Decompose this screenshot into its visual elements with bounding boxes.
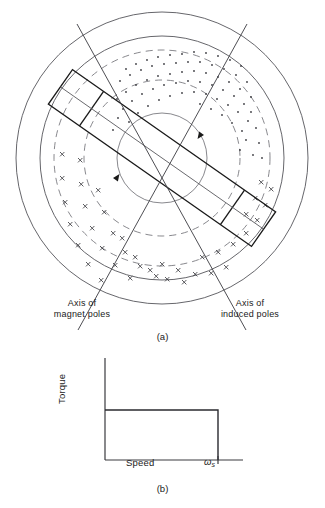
speed-axis-label: Speed <box>126 457 154 468</box>
sync-speed-label: ωs <box>204 456 215 468</box>
axis-of-magnet-poles-line <box>78 24 247 330</box>
induced-label-line-1: Axis of <box>200 298 300 309</box>
torque-speed-chart: Torque Speed ωs <box>0 352 325 492</box>
torque-curve <box>105 410 218 460</box>
omega-symbol: ω <box>204 456 212 467</box>
torque-axis-label: Torque <box>56 374 67 404</box>
axis-of-magnet-poles-label: Axis of magnet poles <box>36 298 128 320</box>
rotor-bar-centre-line <box>60 87 263 229</box>
figure-page: Axis of magnet poles Axis of induced pol… <box>0 0 325 508</box>
rotor-bar-assembly <box>48 70 275 247</box>
torque-speed-chart-svg <box>0 352 325 492</box>
axis-of-induced-poles-line <box>77 24 246 330</box>
axis-of-induced-poles-label: Axis of induced poles <box>200 298 300 320</box>
current-out-of-page-markers <box>112 51 263 159</box>
magnet-label-line-2: magnet poles <box>36 309 128 320</box>
omega-subscript: s <box>212 461 216 468</box>
magnet-label-line-1: Axis of <box>36 298 128 309</box>
induced-label-line-2: induced poles <box>200 309 300 320</box>
caption-b: (b) <box>0 483 325 494</box>
machine-cross-section-figure: Axis of magnet poles Axis of induced pol… <box>0 0 325 350</box>
caption-a: (a) <box>0 331 325 342</box>
current-into-page-markers <box>60 152 273 284</box>
